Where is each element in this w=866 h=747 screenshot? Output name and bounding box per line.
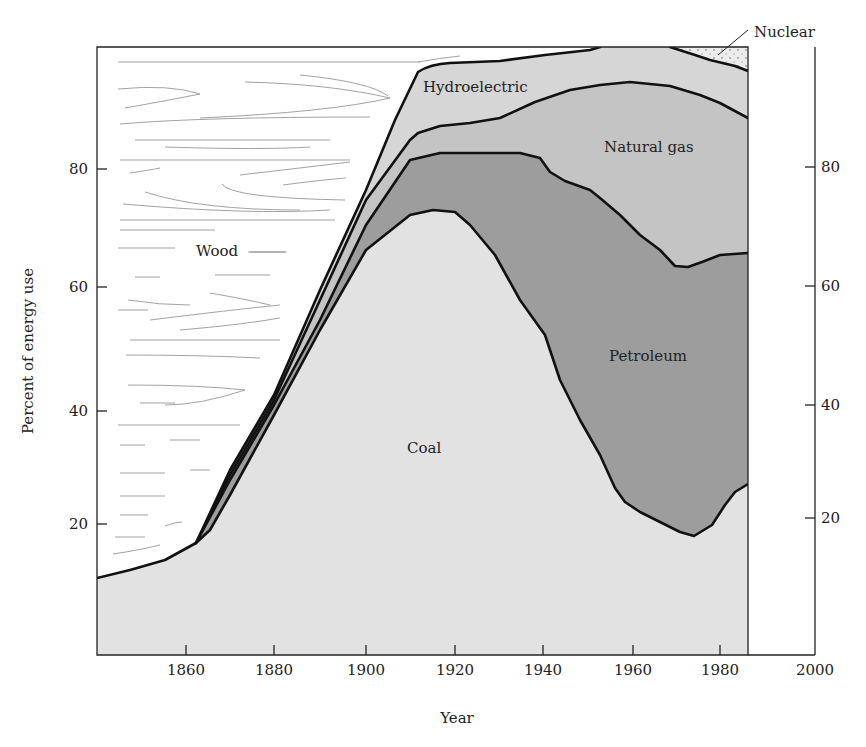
left-y-tick-labels: 80 60 40 20 [69, 160, 88, 533]
x-tick-1980: 1980 [701, 661, 739, 679]
natural-gas-label: Natural gas [604, 138, 694, 156]
y-tick-left-80: 80 [69, 160, 88, 178]
x-tick-1860: 1860 [167, 661, 205, 679]
y-tick-left-40: 40 [69, 402, 88, 420]
x-tick-1900: 1900 [347, 661, 385, 679]
right-y-tick-labels: 80 60 40 20 [821, 158, 840, 527]
wood-label: Wood [196, 242, 238, 260]
nuclear-label: Nuclear [754, 23, 816, 41]
y-tick-right-40: 40 [821, 396, 840, 414]
x-tick-1940: 1940 [524, 661, 562, 679]
y-tick-right-60: 60 [821, 277, 840, 295]
x-tick-1880: 1880 [255, 661, 293, 679]
y-tick-right-80: 80 [821, 158, 840, 176]
y-tick-left-20: 20 [69, 515, 88, 533]
petroleum-label: Petroleum [609, 347, 687, 365]
energy-use-chart: 1860 1880 1900 1920 1940 1960 1980 2000 … [0, 0, 866, 747]
x-tick-2000: 2000 [796, 661, 834, 679]
x-tick-1960: 1960 [614, 661, 652, 679]
hydroelectric-label: Hydroelectric [423, 78, 528, 96]
y-axis-title: Percent of energy use [19, 268, 37, 434]
y-tick-left-60: 60 [69, 278, 88, 296]
x-tick-labels: 1860 1880 1900 1920 1940 1960 1980 2000 [167, 661, 834, 679]
coal-label: Coal [407, 439, 441, 457]
right-y-ticks [805, 167, 815, 518]
x-axis-title: Year [439, 709, 474, 727]
x-tick-1920: 1920 [436, 661, 474, 679]
y-tick-right-20: 20 [821, 509, 840, 527]
